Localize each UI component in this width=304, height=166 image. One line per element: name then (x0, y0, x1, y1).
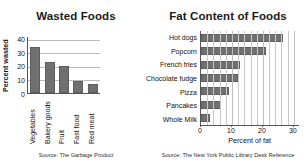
gridline (257, 31, 258, 125)
page-title-fat-content: Fat Content of Foods (152, 10, 304, 22)
y-axis-label-percent-wasted: Percent wasted (0, 37, 11, 94)
gridline (238, 31, 239, 125)
x-axis-tick: 30 (289, 127, 297, 134)
bar (201, 114, 210, 122)
gridline (288, 31, 289, 125)
source-note-wasted-foods: Source: The Garbage Product (0, 152, 152, 158)
tick-mark (262, 125, 263, 127)
gridline (251, 31, 252, 125)
bar (45, 62, 55, 93)
bar (201, 87, 229, 95)
bar (88, 84, 98, 93)
y-axis-category-label: Chocolate fudge (152, 72, 199, 86)
y-axis-tick: 10 (17, 77, 25, 84)
source-note-fat-content: Source: The New York Public Library Desk… (152, 152, 304, 158)
gridline (207, 31, 208, 125)
gridline (213, 31, 214, 125)
gridline (275, 31, 276, 125)
y-axis-tick: 40 (17, 36, 25, 43)
gridline (244, 31, 245, 125)
x-axis-tick: 10 (227, 127, 235, 134)
wasted-foods-chart-panel: Wasted Foods Percent wasted 010203040 Ve… (0, 0, 152, 166)
gridline (232, 31, 233, 125)
y-axis-category-labels: Hot dogsPopcornFrench friesChocolate fud… (152, 31, 199, 126)
gridline (294, 31, 295, 125)
gridline (226, 31, 227, 125)
y-axis-tick: 30 (17, 50, 25, 57)
x-axis-tick: 0 (198, 127, 202, 134)
x-axis-category-labels: VegetablesBakery goodsFruitFast foodRed … (27, 96, 100, 144)
bar (73, 81, 83, 93)
y-axis-category-label: Whole Milk (152, 112, 199, 126)
y-axis-category-label: Pizza (152, 85, 199, 99)
x-axis-tick: 20 (258, 127, 266, 134)
x-axis-label-percent-of-fat: Percent of fat (200, 136, 299, 145)
y-axis-tick: 0 (21, 91, 25, 98)
y-axis-category-label: French fries (152, 58, 199, 72)
x-axis-category-label: Fruit (58, 96, 68, 144)
bar (59, 66, 69, 93)
y-axis-category-label: Hot dogs (152, 31, 199, 45)
tick-mark (231, 125, 232, 127)
bar-series-wasted-foods (28, 37, 100, 93)
figure-container: Wasted Foods Percent wasted 010203040 Ve… (0, 0, 304, 166)
x-axis-category-label: Red meat (88, 96, 98, 144)
plot-area-fat-content (200, 31, 299, 126)
y-axis-category-label: Pancakes (152, 99, 199, 113)
gridline (269, 31, 270, 125)
bar (30, 47, 40, 93)
bar (201, 101, 221, 109)
gridline (220, 31, 221, 125)
tick-mark (293, 125, 294, 127)
y-axis-tick-labels: 010203040 (11, 33, 26, 98)
fat-content-chart-panel: Fat Content of Foods Hot dogsPopcornFren… (152, 0, 304, 166)
y-axis-tick: 20 (17, 63, 25, 70)
x-axis-category-label: Vegetables (29, 96, 39, 144)
tick-mark (200, 125, 201, 127)
gridline (281, 31, 282, 125)
x-axis-category-label: Fast food (73, 96, 83, 144)
gridline (263, 31, 264, 125)
y-axis-category-label: Popcorn (152, 45, 199, 59)
plot-area-wasted-foods (27, 37, 100, 94)
x-axis-category-label: Bakery goods (44, 96, 54, 144)
page-title-wasted-foods: Wasted Foods (0, 10, 152, 22)
